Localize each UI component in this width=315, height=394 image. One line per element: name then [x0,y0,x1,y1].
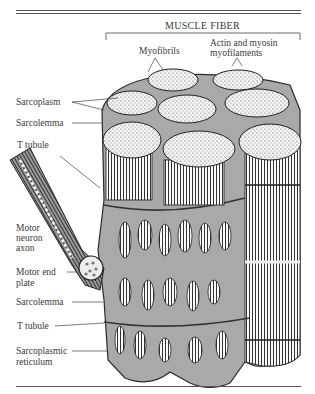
myofibril-column-right [245,140,300,366]
filaments-pointer [232,58,242,66]
label-sarcolemma-bottom: Sarcolemma [16,297,63,308]
bottom-rule [16,386,301,387]
muscle-fiber-illustration [0,0,315,394]
label-sarcolemma-top: Sarcolemma [16,118,63,129]
label-myofibrils: Myofibrils [139,46,180,57]
label-filaments-2: myofilaments [210,48,262,59]
label-sarcoplasm: Sarcoplasm [16,97,60,108]
t-tubule-top-pointer [60,156,100,188]
label-motor-end-1: Motor end [16,267,56,278]
label-motor-end-2: plate [16,278,34,289]
label-sr-2: reticulum [16,357,52,368]
motor-end-plate [79,256,103,280]
t-tubule-bottom-pointer [55,323,104,326]
label-motor-neuron-3: axon [16,243,34,254]
label-t-tubule-top: T tubule [17,140,49,151]
label-t-tubule-bottom: T tubule [17,321,49,332]
label-sr-1: Sarcoplasmic [16,346,67,357]
